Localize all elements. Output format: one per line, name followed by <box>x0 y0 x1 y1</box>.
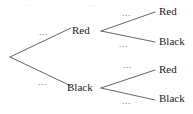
node-level2-black-black: Black <box>159 93 185 104</box>
top-edge-artifact-2: ... <box>88 0 96 8</box>
node-level1-black: Black <box>67 82 93 93</box>
edge-label-red-to-black: ... <box>119 40 128 49</box>
branch-black-to-red <box>101 70 155 88</box>
edge-label-red-to-red: ... <box>122 9 131 18</box>
edge-label-black-to-red: ... <box>123 61 132 70</box>
node-level1-red: Red <box>72 25 90 36</box>
edge-label-black-to-black: ... <box>122 97 131 106</box>
node-level2-black-red: Red <box>159 64 177 75</box>
node-level2-red-black: Black <box>159 36 185 47</box>
edge-label-root-to-black: ... <box>38 78 47 87</box>
top-edge-artifact-1: ... <box>22 0 30 8</box>
probability-tree-diagram: ... ... ... Red Black Red Black Red Blac… <box>0 0 193 114</box>
node-level2-red-red: Red <box>159 6 177 17</box>
edge-label-root-to-red: ... <box>39 28 48 37</box>
